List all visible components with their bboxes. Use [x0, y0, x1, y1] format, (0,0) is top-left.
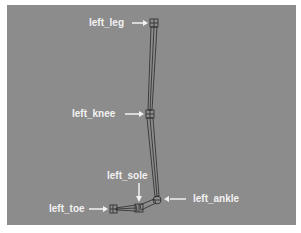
label-left-knee: left_knee: [72, 109, 115, 119]
label-left-sole: left_sole: [107, 171, 148, 181]
bone-foot: [140, 199, 156, 210]
bone-toe: [116, 205, 137, 211]
arrow-left-leg: [132, 20, 148, 26]
label-left-toe: left_toe: [49, 204, 85, 214]
joint-left-knee: [146, 110, 154, 118]
bone-shin: [147, 118, 159, 197]
arrow-left-ankle: [164, 196, 186, 202]
joint-left-leg: [150, 19, 158, 27]
label-left-leg: left_leg: [89, 18, 124, 28]
bone-thigh: [148, 27, 157, 110]
skeleton-rig: [0, 0, 301, 233]
label-left-ankle: left_ankle: [193, 194, 239, 204]
joint-left-ankle: [153, 196, 161, 204]
joint-left-toe: [110, 205, 117, 213]
arrow-left-toe: [89, 206, 108, 212]
arrow-left-knee: [125, 111, 144, 117]
arrow-left-sole: [136, 183, 142, 202]
